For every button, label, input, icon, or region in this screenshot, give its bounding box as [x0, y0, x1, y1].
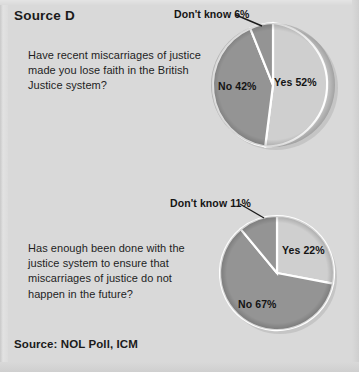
survey-question-2: Has enough been done with the justice sy… — [28, 241, 212, 302]
pie-2-label-no: No 67% — [238, 298, 277, 310]
page-frame-bottom-edge — [0, 362, 359, 372]
pie-chart-1: Yes 52% No 42% Don't know 6% — [196, 2, 356, 162]
pie-2-label-yes: Yes 22% — [282, 244, 325, 256]
pie-chart-2-graphic — [196, 192, 356, 362]
pie-chart-2: Yes 22% No 67% Don't know 11% — [196, 192, 356, 362]
pie-2-label-dont-know: Don't know 11% — [170, 197, 251, 209]
pie-1-label-no: No 42% — [218, 80, 257, 92]
figure-title: Source D — [14, 8, 75, 23]
page-frame-left-edge — [0, 0, 8, 372]
source-d-figure: Source D Have recent miscarriages of jus… — [0, 0, 359, 372]
survey-question-1: Have recent miscarriages of justice made… — [28, 48, 204, 94]
source-attribution: Source: NOL Poll, ICM — [14, 338, 138, 350]
pie-1-label-dont-know: Don't know 6% — [174, 8, 250, 20]
pie-1-label-yes: Yes 52% — [274, 76, 317, 88]
pie-2-edge-shading — [220, 216, 334, 330]
